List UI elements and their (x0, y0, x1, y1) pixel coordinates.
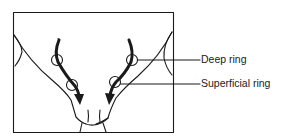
left-body-outline (14, 35, 86, 124)
right-leg-line (103, 123, 106, 132)
right-body-outline (96, 32, 172, 124)
superficial-ring-label: Superficial ring (201, 78, 270, 89)
left-hip-contour (14, 35, 22, 66)
scrotum-midline (88, 110, 89, 122)
right-arrow-shaft (110, 40, 132, 96)
left-leg-line (80, 123, 82, 132)
diagram-frame (14, 13, 174, 133)
deep-ring-label: Deep ring (201, 54, 247, 65)
inguinal-diagram (0, 0, 290, 139)
left-arrowhead-icon (74, 94, 84, 105)
scrotum-midline-2 (100, 110, 101, 122)
